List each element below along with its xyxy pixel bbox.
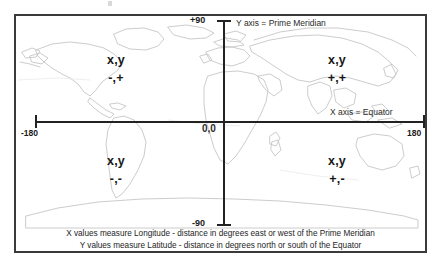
quadrant-vars: x,y xyxy=(86,153,146,171)
x-axis-min-label: -180 xyxy=(21,129,38,138)
scan-artifact xyxy=(108,1,112,6)
quadrant-vars: x,y xyxy=(307,153,367,171)
plot-area: +90 -90 -180 180 0,0 Y axis = Prime Meri… xyxy=(16,16,425,251)
y-axis-bottom-tick xyxy=(217,224,231,226)
quadrant-label-lower-right: x,y +,- xyxy=(307,153,367,189)
quadrant-signs: +,- xyxy=(307,171,367,189)
quadrant-vars: x,y xyxy=(307,52,367,70)
quadrant-signs: -,- xyxy=(86,171,146,189)
figure-caption: X values measure Longitude - distance in… xyxy=(16,228,425,251)
x-axis-name-label: X axis = Equator xyxy=(330,108,393,117)
y-axis-line xyxy=(223,20,225,226)
origin-label: 0,0 xyxy=(202,124,216,134)
quadrant-label-lower-left: x,y -,- xyxy=(86,153,146,189)
coordinate-system-figure: +90 -90 -180 180 0,0 Y axis = Prime Meri… xyxy=(0,0,441,271)
x-axis-line xyxy=(35,121,425,123)
x-axis-right-tick xyxy=(423,115,425,128)
y-axis-min-label: -90 xyxy=(192,219,205,228)
x-axis-left-tick xyxy=(35,115,37,128)
caption-line-2: Y values measure Latitude - distance in … xyxy=(16,240,425,251)
quadrant-label-upper-right: x,y +,+ xyxy=(307,52,367,88)
figure-frame: +90 -90 -180 180 0,0 Y axis = Prime Meri… xyxy=(14,14,427,253)
x-axis-max-label: 180 xyxy=(407,129,421,138)
y-axis-top-tick xyxy=(217,20,231,22)
quadrant-signs: -,+ xyxy=(86,70,146,88)
caption-line-1: X values measure Longitude - distance in… xyxy=(16,228,425,240)
y-axis-name-label: Y axis = Prime Meridian xyxy=(236,19,326,28)
y-axis-max-label: +90 xyxy=(190,16,205,25)
quadrant-vars: x,y xyxy=(86,52,146,70)
quadrant-label-upper-left: x,y -,+ xyxy=(86,52,146,88)
quadrant-signs: +,+ xyxy=(307,70,367,88)
